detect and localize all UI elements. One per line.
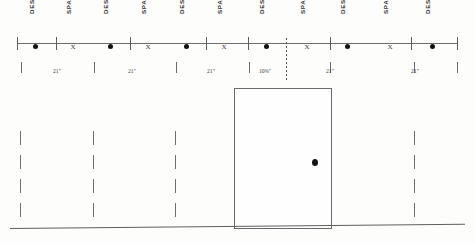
column-label-design-6: DESIGN [258,0,266,14]
panel-seam-dashed-5 [414,131,415,219]
dimension-value-3: 10⅜" [259,68,271,74]
design-dot-marker-4 [184,44,189,49]
column-label-space-9: SPACE [382,0,390,14]
dimension-value-2: 21" [207,68,215,74]
column-label-design-0: DESIGN [28,0,36,14]
column-label-design-8: DESIGN [339,0,347,14]
space-x-marker-1: X [70,43,75,51]
axis-tick-5 [330,37,331,50]
axis-tick-6 [411,37,412,50]
dimension-value-1: 21" [128,68,136,74]
column-label-space-5: SPACE [216,0,224,14]
axis-tick-3 [206,37,207,50]
drawing-canvas: DESIGNSPACEDESIGNSPACEDESIGNSPACEDESIGNS… [0,0,475,243]
door-elevation[interactable] [234,88,332,229]
design-dot-marker-10 [430,44,435,49]
dimension-value-5: 21" [411,68,419,74]
design-dot-marker-2 [108,44,113,49]
axis-break-dotted [286,38,287,80]
space-x-marker-5: X [221,43,226,51]
column-label-space-1: SPACE [65,0,73,14]
space-x-marker-9: X [387,43,392,51]
panel-seam-dashed-1 [93,131,94,219]
door-knob-icon[interactable] [312,159,318,166]
panel-seam-dashed-0 [20,131,21,219]
dimension-value-0: 21" [53,68,61,74]
panel-seam-dashed-2 [175,131,176,219]
dimension-tick-1 [94,62,95,73]
dimension-tick-2 [176,62,177,73]
dimension-tick-3 [249,62,250,73]
design-dot-marker-6 [264,44,269,49]
column-label-design-2: DESIGN [102,0,110,14]
column-label-space-3: SPACE [140,0,148,14]
column-label-design-4: DESIGN [178,0,186,14]
axis-tick-7 [457,37,458,50]
axis-tick-1 [56,37,57,50]
design-dot-marker-0 [33,44,38,49]
axis-tick-2 [130,37,131,50]
design-dot-marker-8 [345,44,350,49]
column-label-design-10: DESIGN [424,0,432,14]
space-x-marker-7: X [304,43,309,51]
dimension-value-4: 21" [326,68,334,74]
axis-tick-4 [248,37,249,50]
dimension-tick-6 [457,62,458,73]
space-x-marker-3: X [145,43,150,51]
column-label-space-7: SPACE [299,0,307,14]
axis-tick-0 [17,37,18,50]
dimension-tick-0 [21,62,22,73]
